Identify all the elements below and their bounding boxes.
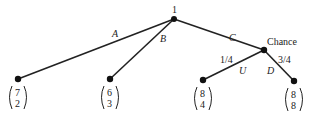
root-label: 1 (172, 4, 177, 15)
edge-b (110, 19, 174, 79)
payoff-b-top: 6 (107, 87, 112, 98)
edge-label-b: B (160, 33, 166, 44)
payoff-b: 6 3 (102, 86, 119, 109)
edge-label-c: C (229, 32, 236, 43)
edge-prob-d: 3/4 (278, 54, 291, 65)
edge-u (203, 50, 264, 80)
edge-label-u: U (239, 65, 247, 76)
payoff-d: 8 8 (286, 88, 303, 111)
chance-label: Chance (267, 36, 298, 47)
edge-c (174, 19, 264, 50)
leaf-node-u (200, 77, 206, 83)
payoff-a: 7 2 (10, 86, 27, 109)
edge-label-a: A (111, 28, 119, 39)
leaf-node-a (15, 76, 21, 82)
leaf-node-d (291, 78, 297, 84)
payoff-a-bottom: 2 (15, 98, 20, 109)
chance-node (261, 47, 267, 53)
root-node (171, 16, 177, 22)
edge-label-d: D (266, 65, 275, 76)
payoff-a-top: 7 (15, 87, 20, 98)
payoff-u-bottom: 4 (200, 99, 205, 110)
payoff-b-bottom: 3 (107, 98, 112, 109)
game-tree: 1 Chance A B C 1/4 U 3/4 D 7 2 6 3 8 4 8… (0, 0, 317, 120)
payoff-u-top: 8 (200, 88, 205, 99)
payoff-d-bottom: 8 (291, 100, 296, 111)
edge-a (18, 19, 174, 79)
payoff-u: 8 4 (195, 87, 212, 110)
payoff-d-top: 8 (291, 89, 296, 100)
leaf-node-b (107, 76, 113, 82)
edge-prob-u: 1/4 (220, 54, 233, 65)
